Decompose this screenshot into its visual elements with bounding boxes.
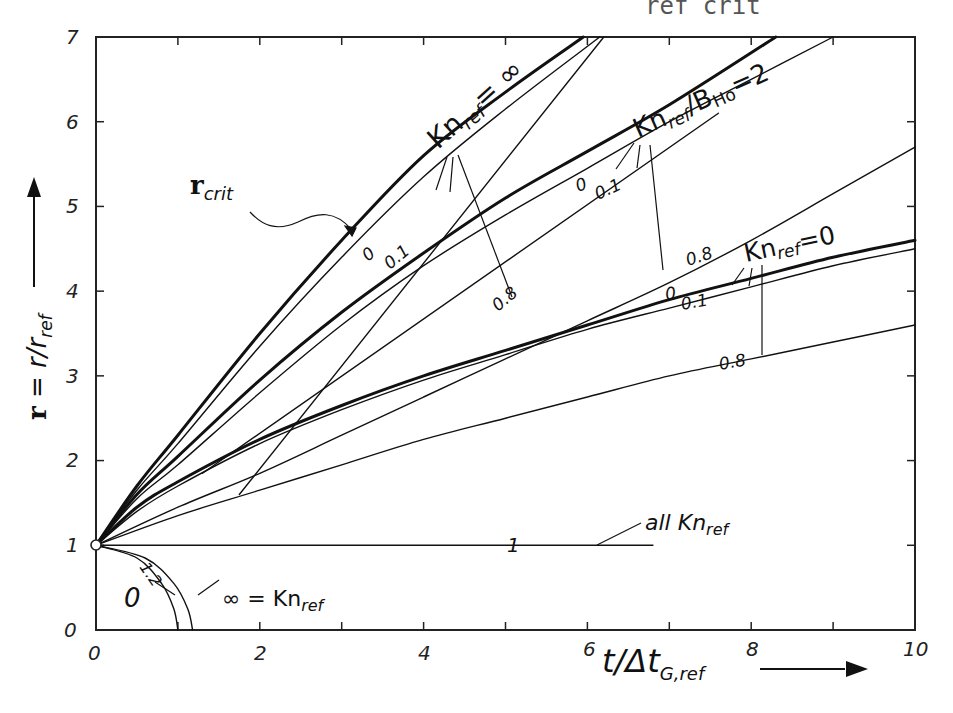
x-axis-arrow-icon [760, 661, 868, 677]
annotation-all-kn: all Knref [645, 510, 731, 539]
curve-r-crit-line-kn-ref-b-ho-2 [203, 113, 719, 473]
svg-text:Knref= ∞: Knref= ∞ [421, 53, 532, 158]
curve-param-labels: 0 0.1 0.8 0 0.1 0.8 0 0.1 0.8 1 1.2 0 [124, 173, 748, 613]
annotation-kn-inf: Knref= ∞ [421, 53, 532, 158]
x-tick-6: 6 [583, 637, 596, 661]
svg-text:r = r/rref: r = r/rref [22, 311, 56, 420]
param-knb2-0: 0 [573, 173, 590, 195]
svg-text:Knref=0: Knref=0 [741, 220, 838, 270]
y-tick-5: 5 [66, 194, 79, 218]
x-tick-0: 0 [88, 641, 101, 665]
axis-ticks [96, 37, 915, 630]
x-axis-label: t/ΔtG,ref [602, 642, 707, 684]
param-kn0-08: 0.8 [717, 350, 747, 374]
y-tick-0: 0 [64, 618, 77, 642]
curves [96, 37, 915, 630]
y-axis-label: r = r/rref [22, 311, 56, 420]
annotation-kn-zero: Knref=0 [741, 220, 838, 270]
annotation-kn-b2: Knref/BHo=2 [628, 57, 774, 146]
y-tick-3: 3 [66, 364, 79, 388]
param-kninf-08: 0.8 [488, 282, 522, 315]
param-kn0-0: 0 [664, 283, 678, 304]
chart-canvas: ref crit 0 2 4 6 8 10 0 1 2 3 4 5 6 7 [0, 0, 953, 713]
x-tick-labels: 0 2 4 6 8 10 [88, 637, 928, 665]
param-kninf-0: 0 [358, 243, 379, 265]
y-tick-labels: 0 1 2 3 4 5 6 7 [64, 25, 79, 642]
x-tick-4: 4 [418, 641, 431, 665]
param-all-1: 1 [507, 533, 520, 557]
annotation-inf-kn: ∞ = Knref [222, 586, 326, 615]
y-tick-4: 4 [66, 279, 79, 303]
curve-b-1-2-kn-ref [96, 545, 193, 630]
x-tick-2: 2 [254, 641, 267, 665]
plot-frame [96, 37, 915, 630]
curve-kn-ref-b-0-1 [96, 37, 600, 545]
x-tick-10: 10 [903, 637, 928, 661]
curve-kn-ref-b-ho-2-b-0-8 [96, 147, 915, 545]
param-kninf-01: 0.1 [380, 240, 414, 273]
y-tick-6: 6 [66, 110, 79, 134]
curve-kn-ref-0-b-0-8 [96, 325, 915, 545]
curve-r-crit-line-kn-ref-b-0-8 [239, 37, 604, 495]
y-tick-7: 7 [66, 25, 79, 49]
param-kn0-descend: 0 [124, 583, 141, 613]
y-tick-2: 2 [66, 448, 79, 472]
y-axis-arrow-icon [27, 177, 41, 287]
origin-point-marker [91, 540, 101, 550]
x-tick-8: 8 [746, 637, 759, 661]
y-tick-1: 1 [66, 533, 79, 557]
header-fragment: ref crit [645, 0, 761, 20]
param-knb2-08: 0.8 [683, 242, 715, 269]
svg-text:Knref/BHo=2: Knref/BHo=2 [628, 57, 774, 146]
param-kn0-01: 0.1 [679, 290, 709, 314]
annotation-rcrit: rcrit [190, 170, 234, 204]
